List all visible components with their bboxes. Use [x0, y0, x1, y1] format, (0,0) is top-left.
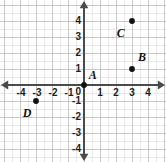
- x-axis-tick-label: -2: [49, 88, 58, 98]
- x-axis-tick-label: 4: [145, 88, 151, 98]
- y-axis-tick-label: -4: [72, 144, 81, 154]
- x-axis-tick-label: 3: [129, 88, 135, 98]
- y-axis-tick-label: 1: [75, 64, 81, 74]
- point-label-a: A: [89, 69, 97, 81]
- y-axis-tick-label: 2: [75, 48, 81, 58]
- point-label-c: C: [117, 27, 125, 39]
- y-axis-tick-label: 4: [75, 16, 81, 26]
- x-axis-tick-label: 2: [113, 88, 119, 98]
- x-axis-tick-label: -4: [17, 88, 26, 98]
- x-axis-tick-label: -3: [33, 88, 42, 98]
- origin-tick-label: 0: [75, 87, 81, 97]
- y-axis-tick-label: -3: [72, 128, 81, 138]
- point-label-b: B: [138, 51, 146, 63]
- y-axis-tick-label: 3: [75, 32, 81, 42]
- plot-layer: [0, 0, 166, 162]
- point-label-d: D: [23, 107, 32, 119]
- y-axis-tick-label: -1: [72, 96, 81, 106]
- coordinate-plane-graph: -4-3-2-112344321-1-2-3-40 ABCD: [0, 0, 166, 162]
- y-axis-tick-label: -2: [72, 112, 81, 122]
- x-axis-tick-label: 1: [97, 88, 103, 98]
